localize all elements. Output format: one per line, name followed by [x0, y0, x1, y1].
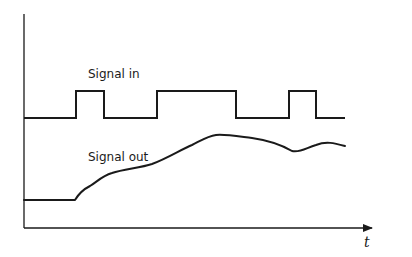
time-axis-label: t	[364, 234, 370, 250]
signal-out-waveform	[24, 135, 345, 200]
signal-in-label: Signal in	[88, 67, 140, 81]
signal-timing-diagram: Signal in Signal out t	[0, 0, 412, 257]
signal-out-label: Signal out	[88, 150, 149, 164]
signal-in-waveform	[24, 91, 345, 118]
